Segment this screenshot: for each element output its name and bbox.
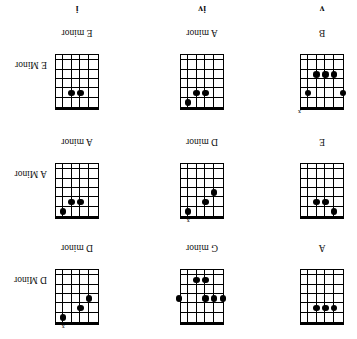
fret-dot bbox=[176, 295, 182, 301]
chord-name-label: A minor bbox=[162, 27, 242, 38]
string-line bbox=[333, 55, 334, 107]
fret-dot bbox=[68, 199, 74, 205]
fret-dot bbox=[77, 305, 83, 311]
roman-numeral-label: i bbox=[37, 3, 117, 14]
chord-name-label: A minor bbox=[37, 136, 117, 147]
fretboard bbox=[55, 54, 99, 110]
fret-line bbox=[56, 196, 98, 197]
fret-line bbox=[301, 69, 343, 70]
fret-line bbox=[301, 206, 343, 207]
fret-line bbox=[181, 59, 223, 60]
fret-line bbox=[301, 168, 343, 169]
fret-line bbox=[181, 87, 223, 88]
fret-dot bbox=[185, 99, 191, 105]
string-line bbox=[307, 270, 308, 322]
fretboard bbox=[180, 269, 224, 325]
string-line bbox=[307, 164, 308, 216]
chord-side-label: D Minor bbox=[14, 274, 47, 285]
fret-line bbox=[181, 69, 223, 70]
fret-dot bbox=[77, 90, 83, 96]
fret-line bbox=[181, 187, 223, 188]
fret-line bbox=[301, 302, 343, 303]
string-line bbox=[324, 270, 325, 322]
fret-dot bbox=[305, 90, 311, 96]
fret-dot bbox=[193, 90, 199, 96]
chord-cell: xD minor bbox=[180, 163, 224, 219]
chord-cell: xD minorD Minor bbox=[55, 269, 99, 325]
chord-name-label: A bbox=[282, 242, 357, 253]
chord-cell: xBv bbox=[300, 54, 344, 110]
chord-name-label: E minor bbox=[37, 27, 117, 38]
fret-dot bbox=[313, 199, 319, 205]
fret-line bbox=[56, 69, 98, 70]
string-line bbox=[204, 55, 205, 107]
roman-numeral-label: iv bbox=[162, 3, 242, 14]
string-line bbox=[324, 164, 325, 216]
string-line bbox=[316, 270, 317, 322]
fret-line bbox=[181, 196, 223, 197]
fret-dot bbox=[86, 295, 92, 301]
string-line bbox=[187, 270, 188, 322]
fretboard bbox=[55, 163, 99, 219]
fret-line bbox=[301, 59, 343, 60]
fret-line bbox=[181, 206, 223, 207]
fret-line bbox=[181, 97, 223, 98]
fret-dot bbox=[202, 277, 208, 283]
fret-line bbox=[56, 312, 98, 313]
fret-line bbox=[301, 97, 343, 98]
chord-cell: E bbox=[300, 163, 344, 219]
fret-line bbox=[301, 196, 343, 197]
fret-dot bbox=[193, 277, 199, 283]
fret-line bbox=[56, 187, 98, 188]
fret-line bbox=[56, 293, 98, 294]
fret-dot bbox=[211, 189, 217, 195]
fret-line bbox=[181, 293, 223, 294]
chord-side-label: E Minor bbox=[15, 59, 47, 70]
fret-line bbox=[56, 274, 98, 275]
fret-line bbox=[181, 284, 223, 285]
muted-string-x: x bbox=[62, 324, 65, 330]
fret-line bbox=[56, 59, 98, 60]
fret-dot bbox=[202, 295, 208, 301]
string-line bbox=[333, 270, 334, 322]
fret-dot bbox=[202, 199, 208, 205]
fret-dot bbox=[185, 208, 191, 214]
string-line bbox=[204, 164, 205, 216]
fretboard bbox=[300, 163, 344, 219]
fret-dot bbox=[220, 295, 226, 301]
fretboard: x bbox=[180, 163, 224, 219]
fret-line bbox=[301, 293, 343, 294]
fretboard: x bbox=[55, 269, 99, 325]
string-line bbox=[79, 164, 80, 216]
muted-string-x: x bbox=[187, 218, 190, 224]
fretboard bbox=[180, 54, 224, 110]
fret-dot bbox=[340, 90, 346, 96]
string-line bbox=[79, 55, 80, 107]
fret-line bbox=[181, 274, 223, 275]
fret-line bbox=[181, 312, 223, 313]
fret-line bbox=[56, 302, 98, 303]
fret-dot bbox=[202, 90, 208, 96]
fret-line bbox=[301, 274, 343, 275]
chord-cell: A minoriv bbox=[180, 54, 224, 110]
fret-line bbox=[56, 284, 98, 285]
string-line bbox=[88, 164, 89, 216]
chord-name-label: D minor bbox=[37, 242, 117, 253]
string-line bbox=[71, 55, 72, 107]
fret-dot bbox=[322, 199, 328, 205]
chord-cell: A minorA Minor bbox=[55, 163, 99, 219]
fretboard: x bbox=[300, 54, 344, 110]
chord-cell: A bbox=[300, 269, 344, 325]
fret-line bbox=[56, 168, 98, 169]
chord-name-label: D minor bbox=[162, 136, 242, 147]
fret-dot bbox=[331, 71, 337, 77]
string-line bbox=[71, 270, 72, 322]
string-line bbox=[71, 164, 72, 216]
muted-string-x: x bbox=[298, 109, 301, 115]
fret-dot bbox=[331, 208, 337, 214]
chord-cell: G minor bbox=[180, 269, 224, 325]
string-line bbox=[307, 55, 308, 107]
string-line bbox=[196, 55, 197, 107]
fret-line bbox=[56, 206, 98, 207]
fret-line bbox=[301, 178, 343, 179]
